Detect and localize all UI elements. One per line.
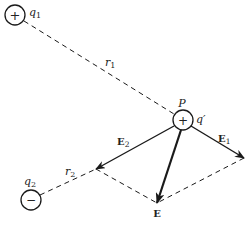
r1-label: r1 [105, 56, 115, 70]
e2-vector-arrow [96, 126, 174, 169]
r2-label: r2 [65, 165, 75, 179]
diagram-canvas: + q1 + P q′ − q2 r1 r2 E1 E2 E [0, 0, 251, 228]
parallelogram-side-e2 [96, 169, 157, 203]
test-charge-p: + P q′ [173, 97, 206, 130]
r1-dashed-line [24, 21, 174, 114]
charge-q2: − q2 [21, 175, 41, 210]
q2-label: q2 [24, 175, 36, 189]
plus-sign-icon: + [178, 114, 188, 128]
q-prime-label: q′ [196, 113, 206, 126]
e-resultant-label: E [153, 208, 161, 219]
plus-sign-icon: + [10, 8, 21, 23]
q1-label: q1 [29, 6, 41, 20]
charge-q1: + q1 [5, 5, 41, 25]
point-p-label: P [177, 97, 186, 110]
e2-label: E2 [117, 136, 130, 149]
minus-sign-icon: − [26, 193, 36, 207]
